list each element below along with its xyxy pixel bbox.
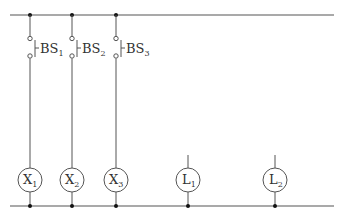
switch-contact <box>114 36 118 40</box>
switch-contact <box>70 36 74 40</box>
switch-contact <box>70 54 74 58</box>
switch-contact <box>28 54 32 58</box>
junction-dot <box>273 204 277 208</box>
junction-dot <box>114 204 118 208</box>
switch-label-bs1: BS1 <box>40 41 64 58</box>
junction-dot <box>70 204 74 208</box>
switch-contact <box>114 54 118 58</box>
switch-label-bs3: BS3 <box>126 41 150 58</box>
switch-label-bs2: BS2 <box>82 41 106 58</box>
junction-dot <box>186 204 190 208</box>
circuit-canvas: BS1X1BS2X2BS3X3L1L2 <box>0 0 346 214</box>
switch-contact <box>28 36 32 40</box>
junction-dot <box>28 204 32 208</box>
ladder-diagram: BS1X1BS2X2BS3X3L1L2 <box>0 0 346 214</box>
